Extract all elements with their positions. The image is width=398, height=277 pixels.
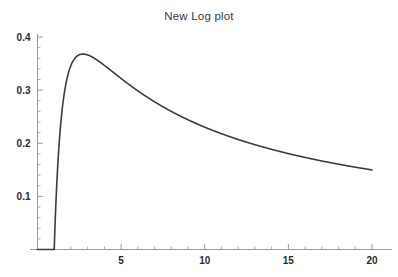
x-axis-tick-labels: 5101520 xyxy=(118,255,378,266)
tick-label: 0.4 xyxy=(17,32,31,43)
tick-label: 0.2 xyxy=(17,138,31,149)
plot-canvas: 5101520 0.10.20.30.4 xyxy=(0,0,398,277)
tick-label: 10 xyxy=(199,255,211,266)
tick-label: 0.3 xyxy=(17,85,31,96)
tick-label: 20 xyxy=(366,255,378,266)
y-axis-tick-labels: 0.10.20.30.4 xyxy=(17,32,31,202)
data-series-curve xyxy=(38,54,373,249)
plot-container: New Log plot 5101520 0.10.20.30.4 xyxy=(0,0,398,277)
tick-label: 5 xyxy=(118,255,124,266)
tick-label: 0.1 xyxy=(17,191,31,202)
x-axis-ticks xyxy=(54,244,372,250)
axes-group xyxy=(30,34,392,250)
y-axis-ticks xyxy=(38,37,44,239)
tick-label: 15 xyxy=(283,255,295,266)
